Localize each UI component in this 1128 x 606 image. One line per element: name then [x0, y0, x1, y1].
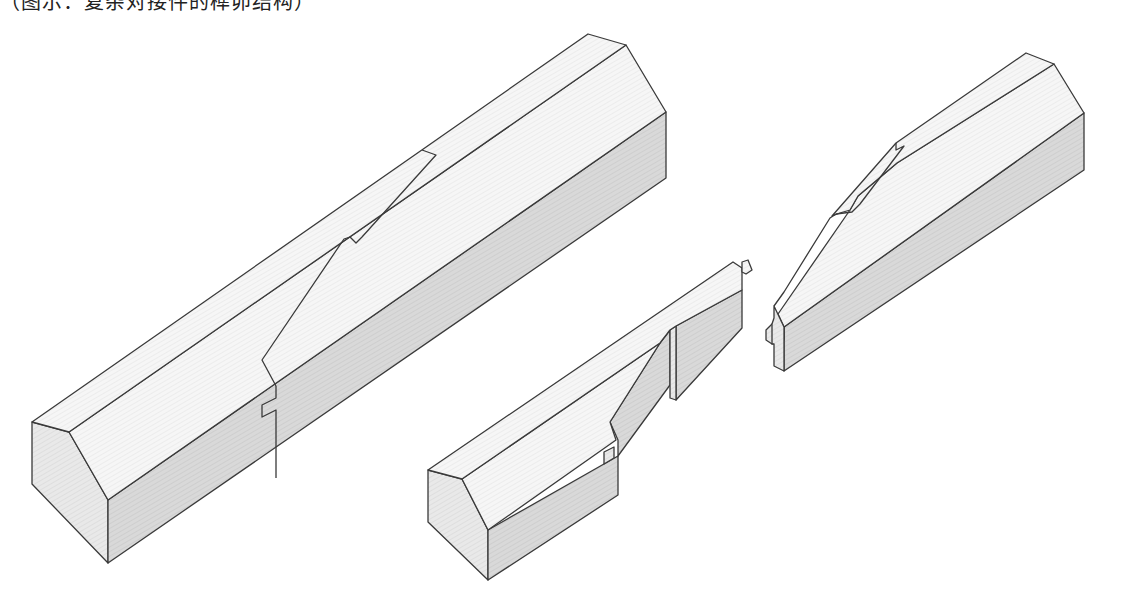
- joint-diagram: [0, 0, 1128, 606]
- lower-tenon-nub: [742, 260, 752, 274]
- upper-half: [766, 53, 1084, 371]
- lower-shoulder-face: [670, 326, 676, 400]
